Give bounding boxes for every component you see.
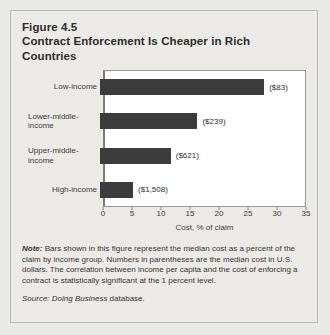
bar — [100, 182, 133, 198]
source-emphasis: Doing Business — [50, 294, 108, 303]
x-axis-tick-label: 20 — [215, 209, 224, 218]
x-axis-tick-label: 30 — [273, 209, 282, 218]
category-label-line1: Lower-middle- — [28, 112, 97, 122]
category-label: Upper-middle- income — [22, 146, 100, 165]
note-lead: Note: — [22, 244, 42, 253]
bar-value-label: ($83) — [269, 83, 288, 92]
x-axis-tick-label: 15 — [186, 209, 195, 218]
bar-value-label: ($239) — [202, 117, 225, 126]
x-axis-ticks: 05101520253035 — [103, 209, 306, 223]
figure-note: Note: Bars shown in this figure represen… — [22, 244, 306, 286]
bar-row: Upper-middle- income ($621) — [22, 139, 308, 173]
source-tail: database. — [107, 294, 144, 303]
source-lead: Source: — [22, 294, 50, 303]
bar — [100, 79, 264, 95]
category-label-line2: income — [28, 121, 97, 131]
x-axis-tick-label: 35 — [302, 209, 311, 218]
figure-number: Figure 4.5 — [22, 20, 306, 34]
category-label: Low-income — [22, 82, 100, 92]
category-label-line1: High-income — [52, 185, 97, 194]
bar-track: ($621) — [100, 139, 308, 173]
bar-row: High-income ($1,508) — [22, 173, 308, 207]
x-axis-title: Cost, % of claim — [103, 223, 306, 232]
bar-chart: Low-income ($83) Lower-middle- income ($… — [22, 68, 308, 242]
category-label: High-income — [22, 185, 100, 195]
category-label-line1: Low-income — [54, 82, 97, 91]
bar-row: Lower-middle- income ($239) — [22, 104, 308, 138]
bar-track: ($1,508) — [100, 173, 308, 207]
bar-value-label: ($1,508) — [138, 185, 168, 194]
bar-row: Low-income ($83) — [22, 70, 308, 104]
bar — [100, 113, 197, 129]
bar — [100, 148, 171, 164]
bar-track: ($83) — [100, 70, 308, 104]
category-label-line2: income — [28, 156, 97, 166]
x-axis-tick-label: 5 — [130, 209, 134, 218]
category-label: Lower-middle- income — [22, 112, 100, 131]
bar-value-label: ($621) — [176, 151, 199, 160]
x-axis-tick-label: 25 — [244, 209, 253, 218]
note-body: Bars shown in this figure represent the … — [22, 244, 298, 285]
bar-track: ($239) — [100, 104, 308, 138]
figure-panel: Figure 4.5 Contract Enforcement Is Cheap… — [10, 10, 318, 323]
bar-rows: Low-income ($83) Lower-middle- income ($… — [22, 70, 308, 207]
x-axis-tick-label: 10 — [157, 209, 166, 218]
figure-source: Source: Doing Business database. — [22, 294, 306, 305]
figure-title: Contract Enforcement Is Cheaper in Rich … — [22, 34, 306, 64]
x-axis-tick-label: 0 — [101, 209, 105, 218]
category-label-line1: Upper-middle- — [28, 146, 97, 156]
